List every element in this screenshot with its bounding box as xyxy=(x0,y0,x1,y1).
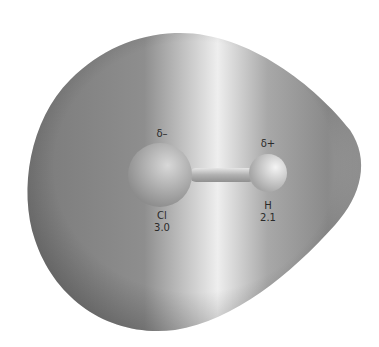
h-partial-charge: δ+ xyxy=(248,138,288,150)
cl-electronegativity: 3.0 xyxy=(142,222,182,234)
h-symbol: H xyxy=(248,200,288,212)
bond xyxy=(190,168,255,182)
potential-surface xyxy=(0,0,379,347)
cl-symbol: Cl xyxy=(142,210,182,222)
cl-partial-charge: δ– xyxy=(142,128,182,140)
h-atom xyxy=(249,154,287,192)
cl-atom xyxy=(128,143,192,207)
h-electronegativity: 2.1 xyxy=(248,212,288,224)
